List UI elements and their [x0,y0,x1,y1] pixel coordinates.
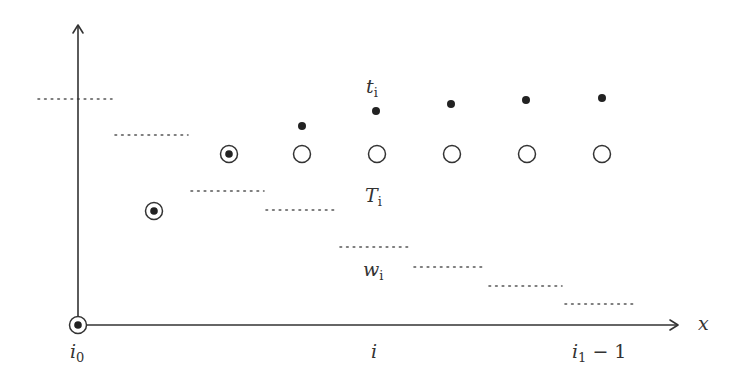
w-i-label: wi [363,258,383,283]
t-point-dot [447,100,455,108]
marked-points [70,146,238,334]
t-point-dot [598,94,606,102]
open-circle-icon [444,146,461,163]
tick-label-i0: i0 [70,340,84,365]
open-circle-icon [294,146,311,163]
axes [73,25,678,330]
open-circle-icon [594,146,611,163]
circled-dot-center [150,207,158,215]
open-circles [294,146,611,163]
T-i-label: Ti [365,184,382,209]
open-circle-icon [369,146,386,163]
tick-label-i: i [371,340,377,362]
diagram-canvas: x tiTiwii0ii1 − 1 [0,0,740,377]
w-dotted-segments [38,99,637,304]
circled-dot-center [225,150,233,158]
open-circle-icon [519,146,536,163]
t-points [298,94,606,130]
circled-dot-center [74,321,82,329]
t-point-dot [298,122,306,130]
tick-label-i1-minus-1: i1 − 1 [572,340,626,365]
t-point-dot [372,107,380,115]
labels: x tiTiwii0ii1 − 1 [70,75,709,365]
t-i-label: ti [366,75,378,100]
t-point-dot [522,96,530,104]
x-axis-label: x [698,312,709,334]
